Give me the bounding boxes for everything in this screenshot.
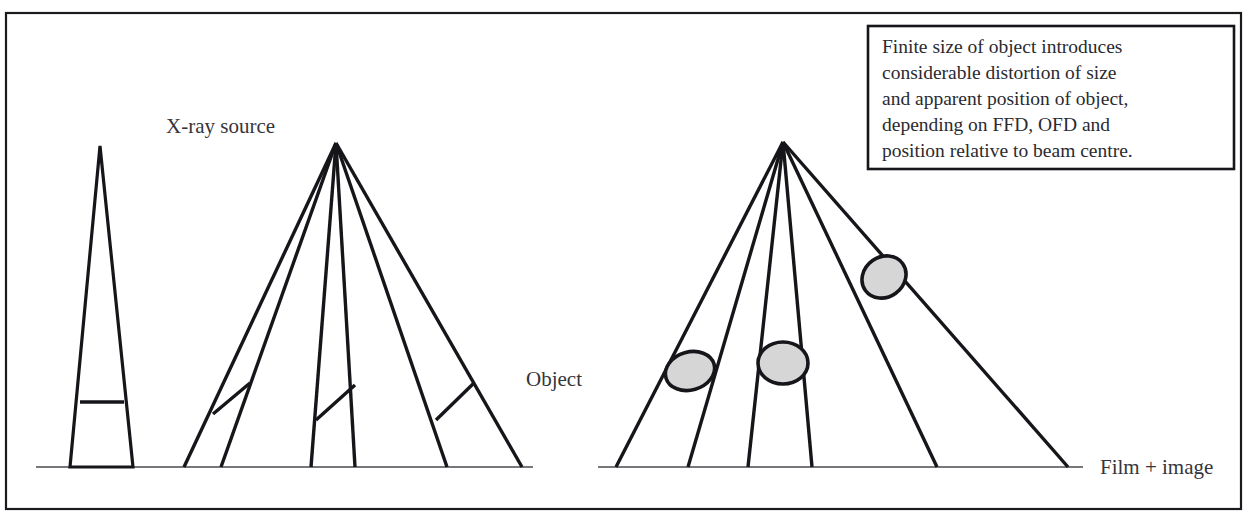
x-ray-source-label: X-ray source (166, 114, 275, 138)
object-ellipse-centre (758, 342, 808, 384)
callout-note-line-2: considerable distortion of size (882, 62, 1116, 83)
callout-note-line-1: Finite size of object introduces (882, 36, 1122, 57)
callout-note-line-3: and apparent position of object, (882, 88, 1128, 109)
fan2-object-slab-centre (316, 385, 355, 420)
callout-note-line-5: position relative to beam centre. (882, 140, 1133, 161)
fan3-ray-3 (748, 142, 783, 467)
flat-object-fan-panel (184, 143, 522, 467)
fan3-ray-1 (616, 142, 783, 467)
fan2-object-slab-right (436, 383, 474, 420)
film-image-label: Film + image (1100, 455, 1213, 479)
callout-note: Finite size of object introduces conside… (868, 26, 1234, 169)
object-ellipse-right (854, 247, 915, 306)
narrow-cone-outline (70, 146, 133, 467)
narrow-beam-cone-panel (70, 146, 133, 467)
fan3-ray-2 (688, 142, 783, 467)
projection-geometry-diagram: X-ray source Object Film + image Finite … (0, 0, 1247, 524)
callout-note-line-4: depending on FFD, OFD and (882, 114, 1110, 135)
fan3-ray-6 (783, 142, 1068, 467)
round-object-fan-panel (616, 142, 1068, 467)
diagram-canvas: X-ray source Object Film + image Finite … (0, 0, 1247, 524)
object-label: Object (526, 367, 582, 391)
